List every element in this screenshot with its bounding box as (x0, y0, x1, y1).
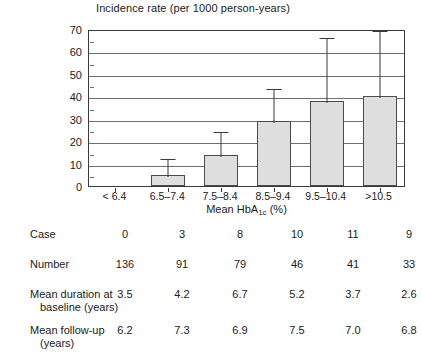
bar-group (300, 31, 353, 186)
table-cell: 7.0 (331, 324, 375, 337)
x-axis-tick-label: 6.5–7.4 (141, 191, 194, 202)
y-axis-tick-label: 0 (58, 182, 82, 193)
error-bar-cap (266, 89, 281, 90)
bar-group (89, 31, 142, 186)
y-axis-tick-label: 20 (58, 137, 82, 148)
error-bar-cap (161, 159, 176, 160)
y-axis-tick-label: 30 (58, 115, 82, 126)
table-row: Mean follow-up(years)6.27.36.97.57.06.8 (30, 324, 412, 360)
table-row-label-line2: (years) (30, 337, 140, 350)
error-bar-cap (319, 38, 334, 39)
table-cell: 5.2 (275, 288, 319, 301)
table-cell: 4.2 (160, 288, 204, 301)
table-cell: 79 (218, 258, 262, 271)
table-row: Case03810119 (30, 228, 412, 258)
x-axis-tick-label: >10.5 (352, 191, 405, 202)
error-bar-line (326, 38, 327, 103)
table-cell: 46 (275, 258, 319, 271)
table-cell: 41 (331, 258, 375, 271)
x-axis-title-units: (%) (267, 203, 287, 215)
table-cell: 136 (103, 258, 147, 271)
y-axis-tick-label: 50 (58, 70, 82, 81)
bar-group (195, 31, 248, 186)
y-axis-tick-label: 10 (58, 160, 82, 171)
table-row: Mean duration atbaseline (years)3.54.26.… (30, 288, 412, 324)
error-bar-cap (372, 31, 387, 32)
table-cell: 7.3 (160, 324, 204, 337)
y-axis-tick-label: 70 (58, 25, 82, 36)
bar-group (353, 31, 406, 186)
table-cell: 33 (387, 258, 422, 271)
error-bar-cap (214, 132, 229, 133)
x-axis-tick-label: < 6.4 (88, 191, 141, 202)
bar-series (89, 31, 404, 186)
table-cell: 7.5 (275, 324, 319, 337)
table-cell: 2.6 (387, 288, 422, 301)
error-bar-line (273, 89, 274, 123)
table-cell: 91 (160, 258, 204, 271)
bar (204, 155, 238, 186)
y-axis-tick-label: 60 (58, 47, 82, 58)
bar-group (248, 31, 301, 186)
table-cell: 10 (275, 228, 319, 241)
table-cell: 6.2 (103, 324, 147, 337)
y-axis-tick-label: 40 (58, 92, 82, 103)
x-axis-title-main: Mean HbA (206, 203, 258, 215)
table-cell: 9 (387, 228, 422, 241)
summary-data-table: Case03810119Number1369179464133Mean dura… (30, 228, 412, 360)
error-bar-line (168, 159, 169, 177)
table-cell: 3.7 (331, 288, 375, 301)
table-cell: 6.9 (218, 324, 262, 337)
x-axis-tick-label: 9.5–10.4 (299, 191, 352, 202)
bar-group (142, 31, 195, 186)
error-bar-line (221, 132, 222, 157)
plot-area (88, 30, 405, 187)
x-axis-tick-label: 7.5–8.4 (194, 191, 247, 202)
bar (257, 121, 291, 186)
table-row-label-line2: baseline (years) (30, 301, 140, 314)
bar (310, 101, 344, 186)
table-row: Number1369179464133 (30, 258, 412, 288)
error-bar-line (379, 31, 380, 98)
table-cell: 8 (218, 228, 262, 241)
chart-plot-region: 010203040506070 < 6.46.5–7.47.5–8.48.5–9… (0, 0, 422, 225)
table-cell: 3.5 (103, 288, 147, 301)
table-cell: 3 (160, 228, 204, 241)
table-cell: 6.7 (218, 288, 262, 301)
x-axis-tick-label: 8.5–9.4 (247, 191, 300, 202)
table-cell: 6.8 (387, 324, 422, 337)
x-axis-title: Mean HbA1c (%) (88, 203, 405, 217)
bar (363, 96, 397, 186)
table-cell: 0 (103, 228, 147, 241)
table-cell: 11 (331, 228, 375, 241)
x-axis-title-subscript: 1c (258, 208, 266, 217)
